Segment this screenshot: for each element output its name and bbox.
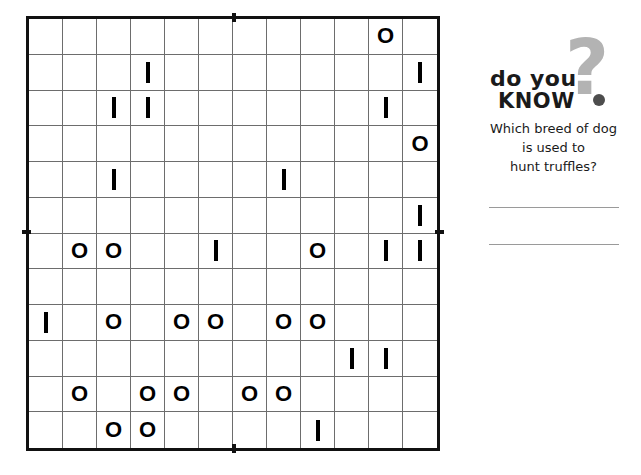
puzzle-cell[interactable] [403,198,437,234]
puzzle-cell[interactable] [165,19,199,55]
puzzle-cell[interactable] [97,198,131,234]
puzzle-cell[interactable] [199,341,233,377]
puzzle-cell[interactable] [199,198,233,234]
puzzle-cell[interactable]: O [199,305,233,341]
puzzle-cell[interactable]: O [267,305,301,341]
puzzle-cell[interactable] [267,412,301,448]
puzzle-cell[interactable] [335,412,369,448]
puzzle-cell[interactable] [369,198,403,234]
puzzle-cell[interactable] [29,269,63,305]
puzzle-cell[interactable] [165,162,199,198]
puzzle-cell[interactable]: O [63,234,97,270]
puzzle-cell[interactable] [369,269,403,305]
puzzle-cell[interactable] [369,234,403,270]
puzzle-cell[interactable] [301,126,335,162]
puzzle-cell[interactable] [267,162,301,198]
puzzle-cell[interactable]: O [165,305,199,341]
puzzle-cell[interactable] [301,377,335,413]
puzzle-cell[interactable] [29,234,63,270]
puzzle-cell[interactable] [403,269,437,305]
puzzle-cell[interactable]: O [97,234,131,270]
puzzle-cell[interactable] [29,91,63,127]
puzzle-cell[interactable] [267,269,301,305]
puzzle-cell[interactable] [29,377,63,413]
puzzle-cell[interactable]: O [301,234,335,270]
puzzle-cell[interactable] [403,341,437,377]
puzzle-cell[interactable] [335,91,369,127]
puzzle-cell[interactable] [165,126,199,162]
puzzle-cell[interactable] [63,19,97,55]
puzzle-cell[interactable] [63,412,97,448]
puzzle-cell[interactable] [335,341,369,377]
puzzle-cell[interactable] [63,341,97,377]
puzzle-cell[interactable] [335,198,369,234]
puzzle-cell[interactable] [403,162,437,198]
puzzle-cell[interactable] [131,91,165,127]
puzzle-cell[interactable] [403,305,437,341]
puzzle-cell[interactable] [335,19,369,55]
puzzle-cell[interactable] [233,269,267,305]
puzzle-cell[interactable] [369,91,403,127]
puzzle-cell[interactable] [267,91,301,127]
puzzle-cell[interactable] [335,55,369,91]
puzzle-cell[interactable] [267,234,301,270]
puzzle-cell[interactable] [131,234,165,270]
puzzle-cell[interactable]: O [131,377,165,413]
puzzle-cell[interactable] [199,162,233,198]
puzzle-cell[interactable] [301,91,335,127]
puzzle-cell[interactable] [29,198,63,234]
puzzle-cell[interactable] [233,341,267,377]
puzzle-cell[interactable]: O [97,412,131,448]
puzzle-cell[interactable] [233,126,267,162]
puzzle-cell[interactable] [301,341,335,377]
puzzle-cell[interactable] [301,412,335,448]
puzzle-cell[interactable] [233,55,267,91]
puzzle-cell[interactable] [369,305,403,341]
puzzle-cell[interactable] [165,198,199,234]
puzzle-cell[interactable] [165,234,199,270]
puzzle-cell[interactable] [63,269,97,305]
puzzle-cell[interactable] [233,91,267,127]
puzzle-cell[interactable] [301,19,335,55]
puzzle-cell[interactable] [131,126,165,162]
puzzle-cell[interactable] [233,412,267,448]
puzzle-cell[interactable] [199,377,233,413]
puzzle-cell[interactable] [267,19,301,55]
puzzle-cell[interactable] [403,412,437,448]
puzzle-cell[interactable] [29,19,63,55]
puzzle-cell[interactable] [199,412,233,448]
puzzle-cell[interactable] [165,269,199,305]
puzzle-cell[interactable] [97,269,131,305]
puzzle-cell[interactable] [233,19,267,55]
puzzle-cell[interactable] [233,162,267,198]
answer-line-2[interactable] [489,244,619,245]
puzzle-cell[interactable] [131,198,165,234]
puzzle-cell[interactable] [199,269,233,305]
puzzle-cell[interactable] [63,126,97,162]
puzzle-cell[interactable] [131,19,165,55]
puzzle-cell[interactable] [233,198,267,234]
puzzle-cell[interactable] [335,269,369,305]
puzzle-cell[interactable] [97,19,131,55]
puzzle-cell[interactable] [29,305,63,341]
puzzle-cell[interactable] [369,162,403,198]
puzzle-cell[interactable]: O [63,377,97,413]
puzzle-cell[interactable] [165,55,199,91]
puzzle-cell[interactable]: O [267,377,301,413]
puzzle-cell[interactable] [403,91,437,127]
puzzle-cell[interactable] [63,198,97,234]
puzzle-cell[interactable] [97,55,131,91]
puzzle-cell[interactable] [335,126,369,162]
puzzle-cell[interactable] [97,126,131,162]
puzzle-cell[interactable] [233,305,267,341]
puzzle-cell[interactable]: O [233,377,267,413]
puzzle-cell[interactable] [369,126,403,162]
puzzle-cell[interactable] [131,269,165,305]
puzzle-cell[interactable] [29,412,63,448]
puzzle-cell[interactable] [233,234,267,270]
puzzle-cell[interactable] [369,55,403,91]
puzzle-cell[interactable] [335,234,369,270]
puzzle-cell[interactable]: O [369,19,403,55]
puzzle-cell[interactable]: O [131,412,165,448]
puzzle-cell[interactable] [267,198,301,234]
